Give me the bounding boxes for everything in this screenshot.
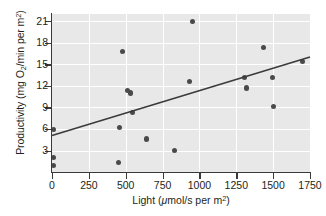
y-axis-tick-label: 9 [8,102,48,113]
y-axis-tick-label: 6 [8,123,48,134]
trend-line [52,57,310,135]
y-axis-tick-label: 3 [8,145,48,156]
x-axis-title: Light (μmol/s per m2) [52,194,310,206]
y-axis-line [51,13,52,173]
y-axis-tick-label: 12 [8,80,48,91]
y-axis-title-close: ) [14,10,26,13]
y-axis-tick-label: 18 [8,37,48,48]
x-axis-title-mid: mol/s per m [167,194,222,206]
y-axis-tick-label: 15 [8,59,48,70]
y-axis-tick-label: 21 [8,16,48,27]
x-axis-title-pre: Light ( [132,194,161,206]
scatter-chart-figure: Productivity (mg O2/min per m2) Light (μ… [0,0,326,216]
trend-line-layer [52,14,310,172]
gridline-vertical [310,14,311,172]
plot-area [52,14,310,172]
x-axis-title-close: ) [226,194,230,206]
x-axis-tick-label: 1750 [286,180,326,191]
